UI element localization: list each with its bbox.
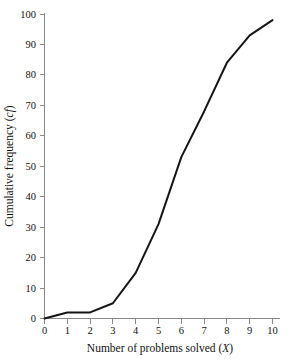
x-axis-title: Number of problems solved (X) bbox=[87, 342, 233, 355]
x-tick-label-10: 10 bbox=[267, 325, 278, 336]
x-tick-label-1: 1 bbox=[65, 325, 70, 336]
y-tick-label-40: 40 bbox=[26, 191, 37, 202]
y-axis-title: Cumulative frequency (cf) bbox=[3, 105, 16, 227]
y-axis-title-tail: ) bbox=[3, 105, 16, 109]
y-tick-label-60: 60 bbox=[26, 130, 37, 141]
x-tick-label-9: 9 bbox=[247, 325, 252, 336]
y-tick-label-50: 50 bbox=[26, 161, 37, 172]
y-tick-label-10: 10 bbox=[26, 283, 37, 294]
y-tick-label-90: 90 bbox=[26, 39, 37, 50]
x-axis-title-tail: ) bbox=[229, 342, 233, 355]
cumulative-frequency-chart: 0 10 20 30 40 50 60 70 80 90 100 0 1 2 3… bbox=[0, 0, 297, 359]
x-tick-label-4: 4 bbox=[133, 325, 139, 336]
y-axis-title-main: Cumulative frequency ( bbox=[3, 117, 16, 226]
x-axis-title-main: Number of problems solved ( bbox=[87, 342, 223, 355]
y-tick-label-100: 100 bbox=[20, 9, 36, 20]
y-tick-label-30: 30 bbox=[26, 222, 37, 233]
x-tick-label-2: 2 bbox=[87, 325, 92, 336]
chart-canvas: 0 10 20 30 40 50 60 70 80 90 100 0 1 2 3… bbox=[0, 0, 297, 359]
x-tick-label-5: 5 bbox=[156, 325, 161, 336]
x-tick-label-8: 8 bbox=[224, 325, 229, 336]
y-tick-label-80: 80 bbox=[26, 69, 37, 80]
y-tick-label-0: 0 bbox=[31, 313, 36, 324]
x-tick-label-6: 6 bbox=[179, 325, 184, 336]
x-tick-label-3: 3 bbox=[110, 325, 115, 336]
y-tick-label-70: 70 bbox=[26, 100, 37, 111]
x-tick-label-0: 0 bbox=[42, 325, 47, 336]
x-tick-label-7: 7 bbox=[201, 325, 206, 336]
y-tick-label-20: 20 bbox=[26, 252, 37, 263]
